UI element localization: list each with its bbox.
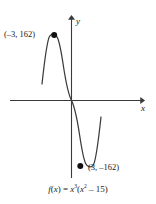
function-equation-caption: f(x) = x3(x2 – 15) <box>0 184 156 194</box>
function-graph-figure: (–3, 162) (3, –162) y x f(x) = x3(x2 – 1… <box>0 0 156 204</box>
local-maximum-point-marker <box>51 32 57 38</box>
local-maximum-label: (–3, 162) <box>4 30 35 39</box>
local-minimum-point-marker <box>77 163 83 169</box>
local-minimum-label: (3, –162) <box>88 163 119 172</box>
x-axis-label: x <box>141 104 145 113</box>
caption-close-equals: ) = <box>58 184 71 194</box>
caption-group-close: ) <box>105 184 108 194</box>
y-axis-label: y <box>76 17 80 26</box>
caption-minus-fifteen: – 15 <box>87 184 105 194</box>
